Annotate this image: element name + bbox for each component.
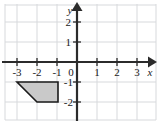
x-tick-label-1: 1: [94, 66, 100, 78]
x-tick-label-3: 3: [134, 66, 140, 78]
x-tick-label--2: -2: [32, 66, 41, 78]
x-axis-label: x: [147, 66, 153, 78]
x-tick-label--3: -3: [12, 66, 22, 78]
x-tick-label--1: -1: [52, 66, 61, 78]
coordinate-plane-figure: -3 -2 -1 1 2 3 2 1 -1 -2 0 x y: [0, 0, 159, 124]
y-axis-label: y: [67, 4, 73, 16]
x-tick-label-2: 2: [114, 66, 120, 78]
y-tick-label--2: -2: [64, 96, 73, 108]
y-tick-label-1: 1: [66, 36, 72, 48]
coordinate-plane-svg: -3 -2 -1 1 2 3 2 1 -1 -2 0 x y: [0, 0, 159, 124]
origin-label: 0: [68, 66, 74, 78]
y-tick-label-2: 2: [66, 16, 72, 28]
